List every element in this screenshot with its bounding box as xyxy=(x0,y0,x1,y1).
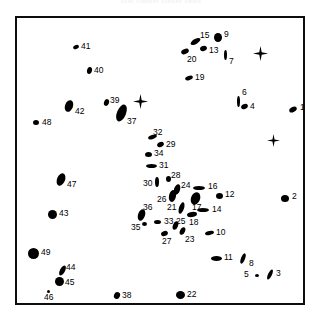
data-point-label: 49 xyxy=(41,248,50,257)
data-point-label: 20 xyxy=(187,55,196,64)
data-point-label: 43 xyxy=(59,209,68,218)
data-point-marker xyxy=(63,99,75,113)
data-point-label: 34 xyxy=(154,149,163,158)
data-point-label: 39 xyxy=(110,96,119,105)
data-point-marker xyxy=(176,291,185,299)
data-point-label: 26 xyxy=(157,195,166,204)
data-point-label: 2 xyxy=(292,192,297,201)
data-point-marker xyxy=(214,33,222,42)
data-point-marker xyxy=(281,195,289,202)
data-point-marker xyxy=(154,220,161,224)
data-point-label: 46 xyxy=(44,293,53,302)
data-point-label: 33 xyxy=(164,217,173,226)
data-point-marker xyxy=(86,66,92,74)
data-point-label: 13 xyxy=(209,46,218,55)
data-point-label: 11 xyxy=(224,253,233,262)
data-point-label: 27 xyxy=(162,237,171,246)
data-point-marker xyxy=(33,120,39,125)
data-point-label: 25 xyxy=(176,217,185,226)
data-point-marker xyxy=(145,152,152,157)
data-point-marker xyxy=(239,252,247,264)
data-point-marker xyxy=(288,105,297,113)
plot-frame: 1234567891011121314151617181920212223242… xyxy=(15,16,305,305)
data-point-marker xyxy=(216,193,223,199)
data-point-marker xyxy=(113,291,121,300)
data-point-marker xyxy=(177,202,185,215)
data-point-marker xyxy=(156,140,164,147)
four-point-star-icon xyxy=(267,134,280,147)
data-point-marker xyxy=(146,164,157,168)
data-point-label: 22 xyxy=(187,290,196,299)
data-point-label: 38 xyxy=(122,291,131,300)
data-point-label: 37 xyxy=(127,117,136,126)
data-point-label: 30 xyxy=(143,179,152,188)
data-point-label: 1 xyxy=(300,103,305,112)
data-point-label: 29 xyxy=(166,140,175,149)
data-point-label: 32 xyxy=(153,128,162,137)
data-point-label: 8 xyxy=(249,259,254,268)
data-point-label: 31 xyxy=(159,161,168,170)
data-point-label: 45 xyxy=(65,278,74,287)
data-point-label: 36 xyxy=(143,203,152,212)
data-point-marker xyxy=(72,44,79,50)
data-point-marker xyxy=(211,256,222,261)
data-point-label: 23 xyxy=(185,235,194,244)
data-point-label: 28 xyxy=(171,171,180,180)
plot-canvas: 1234567891011121314151617181920212223242… xyxy=(17,18,303,303)
data-point-marker xyxy=(55,277,64,286)
data-point-marker xyxy=(193,186,205,190)
data-point-label: 7 xyxy=(229,57,234,66)
data-point-label: 41 xyxy=(81,42,90,51)
data-point-label: 24 xyxy=(181,181,190,190)
data-point-label: 4 xyxy=(250,102,255,111)
data-point-marker xyxy=(142,222,147,226)
data-point-label: 17 xyxy=(192,203,201,212)
data-point-label: 15 xyxy=(200,31,209,40)
data-point-label: 47 xyxy=(67,180,76,189)
data-point-marker xyxy=(48,210,57,219)
four-point-star-icon xyxy=(253,46,268,61)
data-point-label: 3 xyxy=(276,269,281,278)
figure-header-text: Star cluster finder chart xyxy=(0,0,322,4)
data-point-marker xyxy=(199,45,207,52)
data-point-label: 48 xyxy=(42,118,51,127)
data-point-label: 5 xyxy=(244,270,249,279)
data-point-label: 19 xyxy=(195,73,204,82)
data-point-marker xyxy=(266,268,274,280)
data-point-label: 6 xyxy=(242,88,247,97)
data-point-label: 16 xyxy=(208,182,217,191)
data-point-marker xyxy=(103,98,110,106)
data-point-label: 42 xyxy=(75,107,84,116)
data-point-label: 35 xyxy=(131,223,140,232)
data-point-marker xyxy=(167,189,176,202)
data-point-marker xyxy=(155,177,159,187)
data-point-marker xyxy=(166,176,171,182)
data-point-marker xyxy=(255,274,259,277)
data-point-marker xyxy=(224,50,227,60)
data-point-label: 9 xyxy=(224,30,229,39)
data-point-label: 21 xyxy=(167,203,176,212)
data-point-label: 12 xyxy=(225,190,234,199)
data-point-marker xyxy=(240,102,248,109)
data-point-label: 18 xyxy=(189,218,198,227)
data-point-label: 44 xyxy=(66,263,75,272)
data-point-marker xyxy=(185,75,194,81)
data-point-label: 10 xyxy=(216,228,225,237)
data-point-marker xyxy=(28,248,39,259)
four-point-star-icon xyxy=(133,94,148,109)
data-point-label: 14 xyxy=(212,205,221,214)
data-point-marker xyxy=(237,96,240,107)
data-point-marker xyxy=(204,230,214,236)
data-point-label: 40 xyxy=(94,66,103,75)
data-point-marker xyxy=(55,171,67,186)
